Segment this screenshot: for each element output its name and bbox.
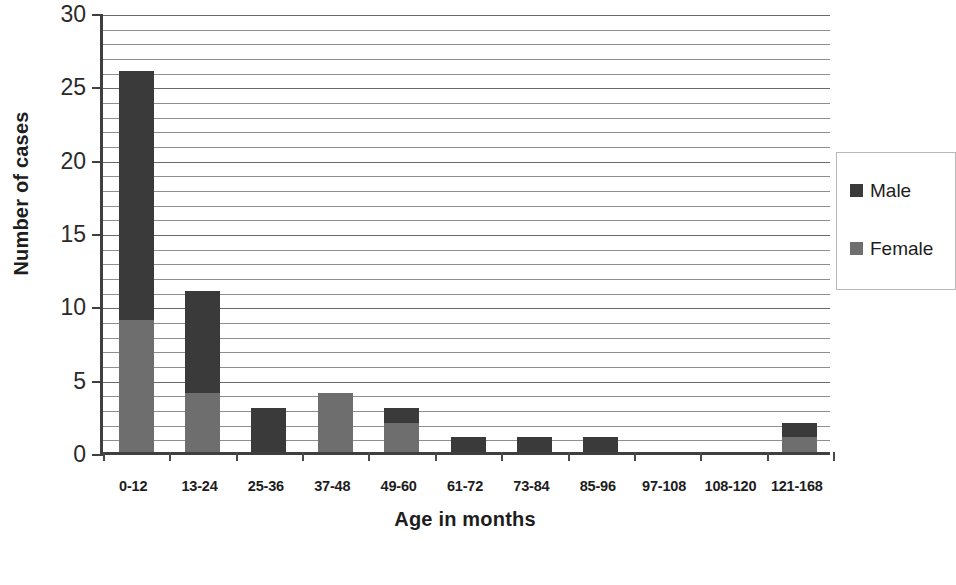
x-tickmark	[236, 452, 238, 461]
bar-group	[650, 15, 685, 452]
legend-item-male[interactable]: Male	[850, 181, 911, 200]
bar-segment-male	[782, 423, 817, 438]
y-tickmark	[92, 161, 103, 163]
bar-segment-female	[384, 423, 419, 452]
bar-group	[185, 15, 220, 452]
bar-group	[583, 15, 618, 452]
bar-segment-male	[451, 437, 486, 452]
x-tickmark	[501, 452, 503, 461]
x-tick-label: 25-36	[233, 478, 299, 494]
x-tick-label: 37-48	[299, 478, 365, 494]
y-tick-label: 25	[34, 76, 86, 99]
y-tick-label: 20	[34, 150, 86, 173]
y-tickmark	[92, 454, 103, 456]
x-tickmark	[568, 452, 570, 461]
x-tick-label: 121-168	[764, 478, 830, 494]
bars-layer	[103, 15, 830, 452]
y-tick-label: 15	[34, 223, 86, 246]
bar-segment-female	[119, 320, 154, 452]
legend-label: Male	[870, 181, 911, 200]
y-tick-label: 10	[34, 296, 86, 319]
x-tickmark	[767, 452, 769, 461]
bar-group	[451, 15, 486, 452]
legend-label: Female	[870, 239, 933, 258]
x-tickmark	[302, 452, 304, 461]
x-tickmark	[435, 452, 437, 461]
bar-segment-male	[251, 408, 286, 452]
y-tick-label: 30	[34, 3, 86, 26]
y-tickmark	[92, 234, 103, 236]
x-tick-label: 85-96	[565, 478, 631, 494]
x-tick-label: 97-108	[631, 478, 697, 494]
x-axis-title: Age in months	[100, 508, 830, 531]
x-tickmark	[833, 452, 835, 461]
plot-area	[100, 15, 830, 455]
legend-item-female[interactable]: Female	[850, 239, 933, 258]
legend-swatch-icon	[850, 242, 863, 255]
y-tickmark	[92, 14, 103, 16]
bar-segment-male	[583, 437, 618, 452]
bar-segment-male	[185, 291, 220, 394]
bar-group	[384, 15, 419, 452]
y-axis-tick-labels: 051015202530	[24, 0, 86, 585]
y-tickmark	[92, 381, 103, 383]
bar-segment-female	[782, 437, 817, 452]
x-tickmark	[700, 452, 702, 461]
x-tick-label: 61-72	[432, 478, 498, 494]
bar-segment-male	[384, 408, 419, 423]
bar-group	[716, 15, 751, 452]
bar-group	[318, 15, 353, 452]
bar-group	[517, 15, 552, 452]
x-tickmark	[169, 452, 171, 461]
bar-group	[119, 15, 154, 452]
y-tickmark	[92, 307, 103, 309]
bar-segment-male	[119, 71, 154, 320]
x-tickmark	[634, 452, 636, 461]
x-tick-label: 13-24	[166, 478, 232, 494]
chart-legend: MaleFemale	[836, 152, 956, 290]
bar-group	[782, 15, 817, 452]
y-tickmark	[92, 87, 103, 89]
bar-group	[251, 15, 286, 452]
bar-segment-female	[318, 393, 353, 452]
x-tick-label: 108-120	[697, 478, 763, 494]
bar-segment-female	[185, 393, 220, 452]
y-tick-label: 0	[34, 443, 86, 466]
y-tick-label: 5	[34, 370, 86, 393]
legend-swatch-icon	[850, 184, 863, 197]
x-tickmark	[368, 452, 370, 461]
x-tick-label: 0-12	[100, 478, 166, 494]
x-tickmark	[103, 452, 105, 461]
bar-segment-male	[517, 437, 552, 452]
x-tick-label: 49-60	[365, 478, 431, 494]
x-tick-label: 73-84	[498, 478, 564, 494]
